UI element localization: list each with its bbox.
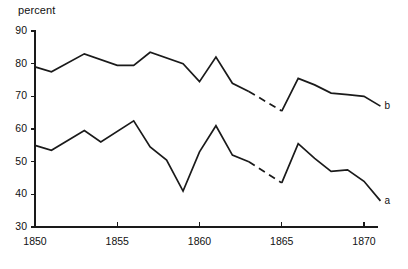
y-tick-label-80: 80	[5, 57, 27, 69]
y-tick-label-30: 30	[5, 220, 27, 232]
x-tick-label-1865: 1865	[262, 235, 302, 247]
series-a-solid-left	[35, 121, 249, 191]
y-tick-label-40: 40	[5, 187, 27, 199]
y-tick-label-90: 90	[5, 24, 27, 36]
series-b-dashed	[249, 91, 282, 111]
x-tick-label-1850: 1850	[15, 235, 55, 247]
series-b-solid-left	[35, 52, 249, 91]
axis-group	[31, 30, 378, 228]
x-tick-label-1860: 1860	[180, 235, 220, 247]
y-tick-label-50: 50	[5, 155, 27, 167]
y-tick-label-70: 70	[5, 89, 27, 101]
series-label-a: a	[384, 195, 390, 206]
chart-container: percent 30405060708090 18501855186018651…	[0, 0, 408, 269]
series-b-solid-right	[282, 78, 381, 111]
chart-plot-area	[0, 0, 408, 269]
x-tick-label-1870: 1870	[344, 235, 384, 247]
series-label-b: b	[384, 100, 390, 111]
series-group	[35, 52, 380, 201]
series-a-dashed	[249, 162, 282, 183]
y-tick-label-60: 60	[5, 122, 27, 134]
x-tick-label-1855: 1855	[97, 235, 137, 247]
series-a-solid-right	[282, 144, 381, 201]
